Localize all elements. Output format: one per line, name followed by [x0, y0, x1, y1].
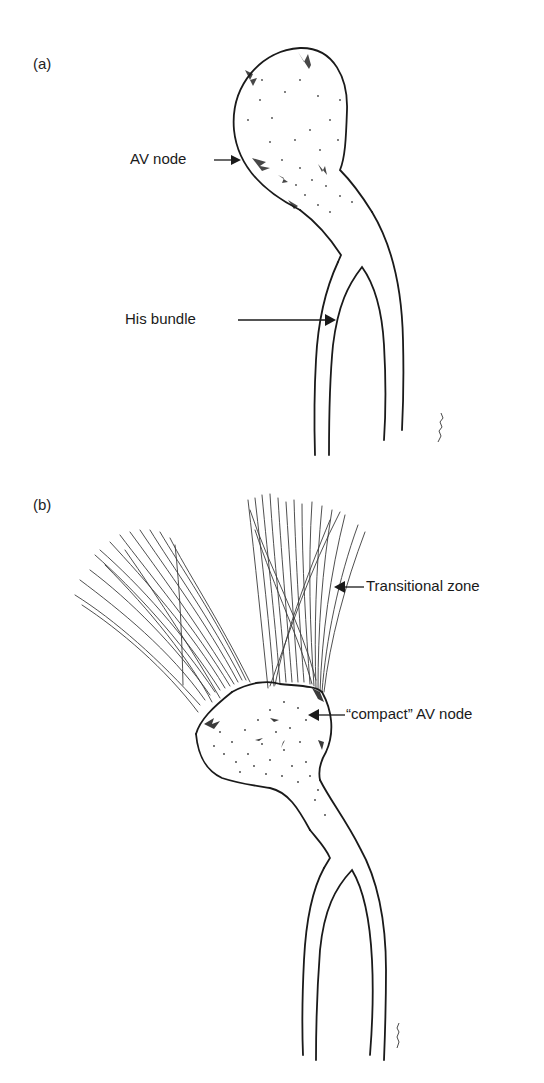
label-his-bundle: His bundle — [125, 310, 196, 327]
label-transitional-zone: Transitional zone — [366, 577, 480, 594]
av-node-his-bundle-illustration — [0, 0, 544, 470]
label-av-node: AV node — [130, 150, 186, 167]
panel-a: (a) — [0, 0, 544, 470]
label-compact-av-node: “compact” AV node — [346, 705, 472, 722]
compact-av-node-transitional-zone-illustration — [0, 470, 544, 1083]
panel-b: (b) — [0, 470, 544, 1083]
